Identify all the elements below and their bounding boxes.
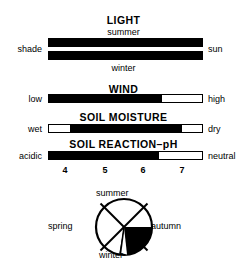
soil-reaction-section-title: SOIL REACTION–pH [0,138,247,150]
season-label-winter: winter [99,250,123,260]
wind-left-label: low [28,94,42,104]
ph-tick-7: 7 [175,165,189,175]
soil-reaction-bar-fill [49,152,159,159]
soil-reaction-right-label: neutral [208,151,236,161]
light-summer-sublabel: summer [0,27,247,37]
soil-moisture-right-label: dry [208,124,221,134]
season-label-spring: spring [48,221,73,231]
wind-bar-fill [49,95,162,102]
soil-moisture-left-label: wet [28,124,42,134]
light-winter-bar-fill [49,52,202,59]
wind-bar [48,94,203,103]
ph-tick-6: 6 [136,165,150,175]
wind-right-label: high [208,94,225,104]
soil-moisture-bar-fill [70,125,182,132]
light-summer-bar-fill [49,39,202,46]
soil-reaction-bar [48,151,203,160]
light-summer-bar [48,38,203,47]
light-winter-sublabel: winter [0,63,247,73]
light-right-label: sun [208,44,223,54]
ph-tick-5: 5 [98,165,112,175]
ph-tick-4: 4 [58,165,72,175]
soil-reaction-left-label: acidic [19,151,42,161]
season-label-summer: summer [96,188,129,198]
season-label-autumn: autumn [151,221,181,231]
light-winter-bar [48,51,203,60]
light-left-label: shade [17,44,42,54]
soil-moisture-bar [48,124,203,133]
soil-moisture-section-title: SOIL MOISTURE [0,111,247,123]
light-section-title: LIGHT [0,14,247,26]
